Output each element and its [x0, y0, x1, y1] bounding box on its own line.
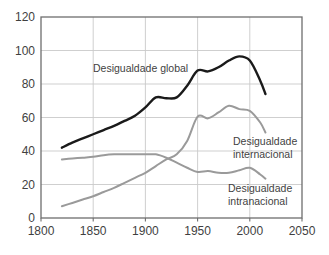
y-axis-label: 120 [15, 10, 35, 24]
y-axis-label: 60 [22, 111, 36, 125]
x-axis-label: 1850 [80, 224, 107, 238]
inequality-line-chart: 020406080100120 180018501900195020002050… [0, 0, 329, 255]
y-axis-label: 40 [22, 144, 36, 158]
annotation-intranacional: Desigualdadeintranacional [228, 182, 292, 207]
y-axis-label: 80 [22, 77, 36, 91]
y-axis-label: 20 [22, 178, 36, 192]
x-axis-label: 1950 [184, 224, 211, 238]
annotation-global: Desigualdade global [93, 62, 188, 74]
x-axis-label: 1900 [132, 224, 159, 238]
y-axis-label: 100 [15, 44, 35, 58]
x-axis-label: 1800 [28, 224, 55, 238]
chart-background [0, 0, 329, 255]
x-axis-label: 2050 [289, 224, 316, 238]
annotation-internacional: Desigualdadeinternacional [233, 135, 297, 160]
x-axis-label: 2000 [236, 224, 263, 238]
chart-container: 020406080100120 180018501900195020002050… [0, 0, 329, 255]
